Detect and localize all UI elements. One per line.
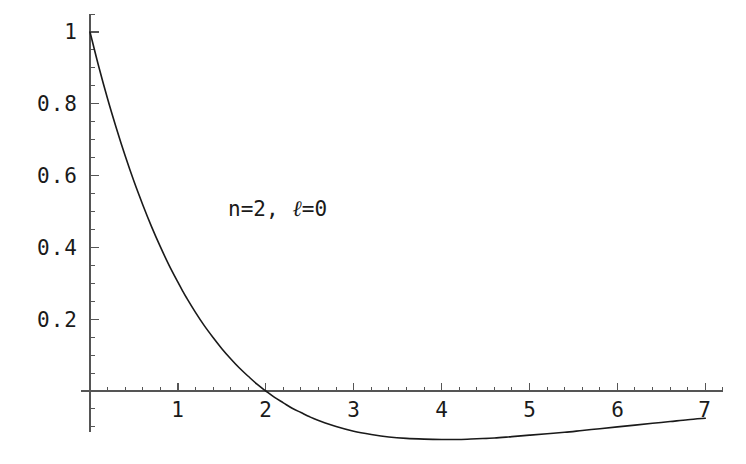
plot-figure: 1 0.8 0.6 0.4 0.2 1 2 3 4 5 6 7 n=2,ℓ=0 [0, 0, 746, 464]
y-tick-label-0.4: 0.4 [10, 236, 78, 260]
y-tick-label-0.2: 0.2 [10, 308, 78, 332]
annotation-prefix: n=2, [228, 197, 279, 221]
x-tick-label-2: 2 [253, 398, 279, 422]
wavefunction-curve [90, 32, 705, 440]
x-tick-label-5: 5 [517, 398, 543, 422]
y-tick-label-0.8: 0.8 [10, 92, 78, 116]
y-tick-label-1: 1 [44, 20, 78, 44]
x-tick-label-7: 7 [692, 398, 718, 422]
x-tick-label-3: 3 [341, 398, 367, 422]
annotation-suffix: =0 [302, 197, 327, 221]
plot-canvas [0, 0, 746, 464]
x-tick-label-6: 6 [605, 398, 631, 422]
x-tick-label-4: 4 [429, 398, 455, 422]
y-tick-label-0.6: 0.6 [10, 164, 78, 188]
x-tick-label-1: 1 [165, 398, 191, 422]
axes-group [81, 14, 723, 432]
ell-symbol: ℓ [293, 196, 302, 221]
curve-group [90, 32, 705, 440]
quantum-numbers-annotation: n=2,ℓ=0 [228, 196, 327, 222]
